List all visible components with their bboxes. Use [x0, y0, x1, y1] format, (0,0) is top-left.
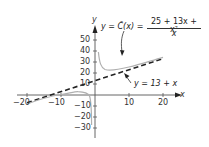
y-tick-label: −10 [74, 102, 91, 110]
y-tick-label: 50 [80, 36, 90, 44]
y-tick-label: −30 [74, 124, 91, 132]
x-axis-label: x [180, 91, 185, 99]
line-pointer-arrowhead-icon [124, 73, 130, 79]
y-tick-label: 10 [80, 80, 90, 88]
y-tick-label: 20 [80, 69, 90, 77]
x-tick-label: −20 [13, 99, 30, 107]
curve-equation-lhs: y = C̄(x) = [101, 23, 143, 31]
curve-equation-denominator: x [146, 30, 202, 38]
y-tick-label: −20 [74, 113, 91, 121]
y-tick-label: 40 [80, 47, 90, 55]
y-axis-arrow-icon [93, 25, 98, 33]
y-axis-label: y [92, 16, 97, 24]
x-tick-label: −10 [48, 99, 65, 107]
x-tick-label: 10 [124, 99, 134, 107]
curve-pointer-arrowhead-icon [120, 50, 125, 56]
line-equation: y = 13 + x [134, 80, 177, 88]
curve-pointer-arrow [121, 31, 124, 52]
x-tick-label: 20 [158, 99, 168, 107]
y-tick-label: 30 [80, 58, 90, 66]
